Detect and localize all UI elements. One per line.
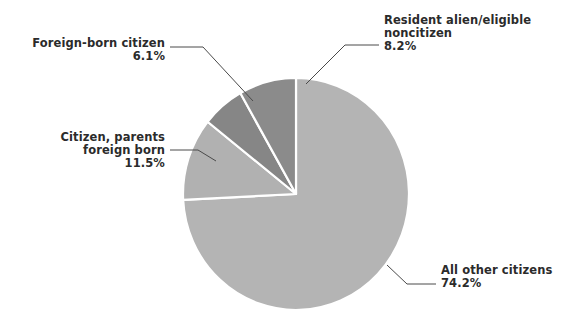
- slice-value-all-other: 74.2%: [441, 277, 552, 290]
- slice-value-citizen-parents: 11.5%: [26, 157, 165, 170]
- slice-value-resident-alien: 8.2%: [384, 40, 531, 53]
- slice-label-citizen-parents: Citizen, parents foreign born 11.5%: [26, 131, 165, 171]
- slice-value-foreign-born: 6.1%: [26, 50, 165, 63]
- slice-label-all-other: All other citizens 74.2%: [441, 264, 552, 290]
- slice-label-resident-alien: Resident alien/eligible noncitizen 8.2%: [384, 14, 531, 54]
- pie-chart: Resident alien/eligible noncitizen 8.2% …: [0, 0, 571, 328]
- slice-label-foreign-born: Foreign-born citizen 6.1%: [26, 37, 165, 63]
- pie-slice-group: [183, 78, 409, 310]
